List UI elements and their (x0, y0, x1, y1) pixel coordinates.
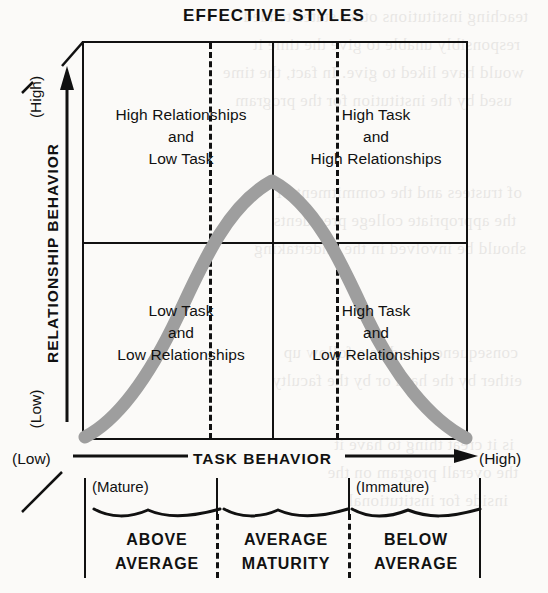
y-axis-high-label: (High) (27, 55, 45, 139)
maturity-segment-line: AVERAGE (352, 552, 480, 576)
quadrant-line: High Task (288, 300, 464, 322)
maturity-marker-mature: (Mature) (92, 478, 149, 495)
quadrant-bottom-left: Low Task and Low Relationships (96, 300, 266, 366)
horizontal-center-axis (82, 242, 468, 244)
quadrant-line: and (288, 322, 464, 344)
quadrant-line: High Task (288, 104, 464, 126)
x-axis-title: TASK BEHAVIOR (193, 450, 332, 468)
quadrant-line: High Relationships (96, 104, 266, 126)
quadrant-line: High Relationships (288, 148, 464, 170)
quadrant-line: Low Relationships (96, 344, 266, 366)
curly-brace-segment-0 (92, 505, 222, 523)
quadrant-line: and (96, 126, 266, 148)
y-axis-title: RELATIONSHIP BEHAVIOR (44, 133, 62, 373)
maturity-segment-line: ABOVE (93, 528, 221, 552)
quadrant-top-left: High Relationships and Low Task (96, 104, 266, 170)
curly-brace-segment-1 (222, 505, 350, 523)
maturity-scale-tick-left-end (84, 478, 86, 578)
maturity-segment-line: AVERAGE (222, 528, 350, 552)
vertical-center-axis (272, 41, 274, 440)
maturity-segment-line: MATURITY (222, 552, 350, 576)
quadrant-bottom-right: High Task and Low Relationships (288, 300, 464, 366)
quadrant-line: Low Task (96, 148, 266, 170)
quadrant-top-right: High Task and High Relationships (288, 104, 464, 170)
dashed-divider-right (336, 43, 339, 439)
maturity-segment-2-label: BELOW AVERAGE (352, 528, 480, 576)
quadrant-line: Low Relationships (288, 344, 464, 366)
quadrant-line: Low Task (96, 300, 266, 322)
quadrant-line: and (288, 126, 464, 148)
dashed-divider-left (209, 43, 212, 439)
maturity-marker-immature: (Immature) (356, 478, 429, 495)
curly-brace-segment-2 (350, 505, 482, 523)
scanned-diagram-page: teaching institutions other states tende… (0, 0, 548, 593)
maturity-segment-line: AVERAGE (93, 552, 221, 576)
chart-title: EFFECTIVE STYLES (0, 6, 548, 26)
maturity-segment-0-label: ABOVE AVERAGE (93, 528, 221, 576)
x-axis-low-label: (Low) (12, 450, 51, 468)
plot-frame (82, 41, 468, 440)
maturity-segment-1-label: AVERAGE MATURITY (222, 528, 350, 576)
quadrant-line: and (96, 322, 266, 344)
y-axis-low-label: (Low) (27, 367, 45, 451)
x-axis-high-label: (High) (479, 450, 521, 468)
maturity-segment-line: BELOW (352, 528, 480, 552)
